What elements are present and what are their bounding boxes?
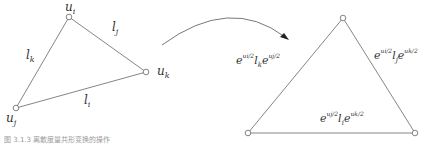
mapping-arrow <box>162 18 289 45</box>
edge-label-li: li <box>84 93 90 109</box>
edge-label-lk: lk <box>26 48 35 64</box>
edge-label-lj: lj <box>112 20 118 36</box>
edge-expr-bottom: euj/2lieuk/2 <box>320 110 364 127</box>
vertex-label-ui: ui <box>65 0 75 16</box>
edge-expr-right: eui/2ljeuk/2 <box>374 47 418 64</box>
vertex-label-uk: uk <box>157 64 170 80</box>
vertex-label-uj: uj <box>6 111 16 127</box>
figure-caption: 图 3.1.3 离散度量共形变换的操作 <box>4 134 110 144</box>
edge-expr-left: eui/2lkeuj/2 <box>236 52 280 69</box>
